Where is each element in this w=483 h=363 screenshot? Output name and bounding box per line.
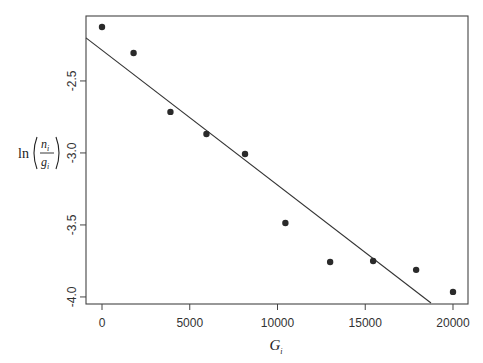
- x-tick-label: 15000: [349, 316, 383, 330]
- y-tick-label: -4.0: [65, 286, 79, 307]
- data-points: [99, 24, 456, 295]
- x-tick-label: 20000: [436, 316, 470, 330]
- y-axis-numerator: ni: [41, 137, 49, 153]
- data-point: [242, 151, 248, 157]
- data-point: [99, 24, 105, 30]
- regression-line: [86, 38, 431, 303]
- data-point: [413, 267, 419, 273]
- y-axis-ln: ln: [18, 146, 29, 161]
- x-tick-label: 0: [99, 316, 106, 330]
- x-tick-label: 10000: [261, 316, 295, 330]
- data-point: [282, 220, 288, 226]
- y-tick-label: -2.5: [65, 70, 79, 91]
- fit-line: [86, 38, 431, 303]
- data-point: [370, 258, 376, 264]
- y-axis-title: ln ni gi: [18, 137, 59, 171]
- x-axis-title: Gi: [269, 337, 282, 356]
- data-point: [450, 289, 456, 295]
- y-tick-label: -3.5: [65, 214, 79, 235]
- x-axis: 05000100001500020000: [99, 304, 470, 330]
- data-point: [327, 259, 333, 265]
- y-axis: -2.5-3.0-3.5-4.0: [65, 70, 86, 307]
- scatter-chart: 05000100001500020000 -2.5-3.0-3.5-4.0 Gi…: [0, 0, 483, 363]
- plot-border: [86, 16, 468, 304]
- data-point: [167, 109, 173, 115]
- y-tick-label: -3.0: [65, 142, 79, 163]
- data-point: [130, 50, 136, 56]
- right-paren: [56, 137, 59, 169]
- x-tick-label: 5000: [176, 316, 203, 330]
- data-point: [203, 131, 209, 137]
- y-axis-denominator: gi: [41, 155, 49, 171]
- plot-frame: [86, 16, 468, 304]
- left-paren: [34, 137, 37, 169]
